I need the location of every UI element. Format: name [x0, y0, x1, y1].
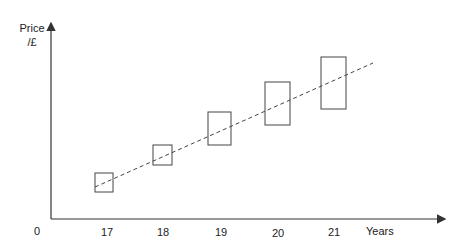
- range-box-19: [208, 112, 231, 145]
- x-tick-17: 17: [101, 226, 113, 238]
- origin-label: 0: [34, 225, 40, 237]
- x-axis-label: Years: [366, 225, 394, 237]
- x-tick-19: 19: [215, 226, 227, 238]
- y-axis-label-line2: /£: [27, 36, 36, 48]
- range-box-20: [265, 82, 290, 125]
- x-tick-21: 21: [328, 226, 340, 238]
- x-tick-18: 18: [157, 226, 169, 238]
- price-range-chart: Price /£ 0 17 18 19 20 21 Years: [0, 0, 459, 248]
- range-box-21: [321, 57, 346, 109]
- range-box-18: [153, 145, 172, 165]
- y-axis-label-line1: Price: [19, 22, 44, 34]
- x-tick-20: 20: [272, 227, 284, 239]
- trend-line: [95, 63, 373, 187]
